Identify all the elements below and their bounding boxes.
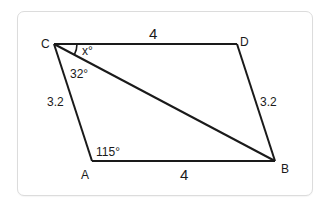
angle-label-115: 115° — [96, 145, 120, 159]
vertex-label-a: A — [81, 168, 89, 182]
angle-arc-x — [74, 44, 77, 55]
angle-label-32: 32° — [70, 67, 88, 81]
side-label-ca: 3.2 — [47, 95, 64, 109]
vertex-label-b: B — [281, 162, 289, 176]
parallelogram-diagram: C D A B 4 4 3.2 3.2 x° 32° 115° — [0, 0, 328, 203]
vertex-label-d: D — [240, 35, 249, 49]
side-label-db: 3.2 — [260, 95, 277, 109]
side-label-ab: 4 — [180, 166, 188, 183]
side-label-cd: 4 — [149, 25, 157, 42]
vertex-label-c: C — [41, 37, 50, 51]
angle-label-x: x° — [82, 44, 93, 58]
